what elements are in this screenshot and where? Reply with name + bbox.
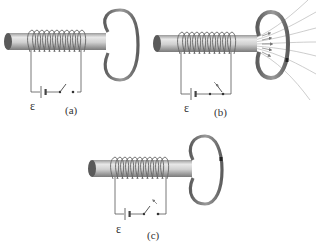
induced-current-mark [286,58,289,62]
panel-b: ε (b) [153,0,316,119]
switch-open-icon [59,84,74,93]
switch-closing-icon [209,82,225,95]
panel-a: ε (a) [4,10,138,117]
panel-label: (b) [214,106,227,119]
circuit-wire [181,52,231,94]
panel-label: (c) [147,229,160,242]
emf-label: ε [184,101,189,115]
emf-label: ε [116,222,121,236]
induced-current-mark [220,157,223,161]
circuit-wire [115,177,166,214]
induction-diagram: ε (a) [0,0,316,244]
panel-label: (a) [65,104,78,117]
emf-label: ε [30,99,35,113]
iron-core [88,160,192,177]
circuit-wire [31,50,81,92]
battery-icon [125,208,131,220]
switch-opening-icon [143,200,160,215]
battery-icon [41,86,47,98]
metal-ring [257,12,288,78]
panel-c: ε (c) [88,136,223,242]
metal-ring [190,136,222,204]
battery-icon [191,88,197,100]
metal-ring [105,10,138,80]
